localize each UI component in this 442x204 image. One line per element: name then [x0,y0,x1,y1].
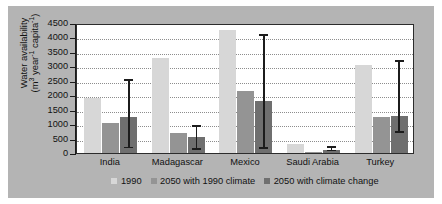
legend-item[interactable]: 1990 [111,176,141,186]
legend-swatch [151,178,157,184]
bar-group [347,23,415,153]
legend: 19902050 with 1990 climate2050 with clim… [76,174,414,188]
bar [237,91,254,153]
bar [219,30,236,153]
error-bar-cap [259,34,268,36]
y-axis-tick-labels: 050010001500200025003000350040004500 [8,6,68,198]
error-bar [398,62,400,133]
y-axis-tick [70,24,76,25]
y-axis-tick-label: 2500 [10,77,68,86]
legend-label: 2050 with 1990 climate [160,176,255,186]
error-bar-cap [124,147,133,149]
bar-group [77,23,145,153]
error-bar [263,36,265,149]
bar [102,123,119,153]
y-axis-tick-label: 500 [10,135,68,144]
x-axis-tick-label: Mexico [211,156,279,168]
y-axis-tick [70,154,76,155]
y-axis-tick [70,125,76,126]
y-axis-tick-label: 2000 [10,91,68,100]
y-axis-tick-label: 3500 [10,48,68,57]
bar [84,98,101,153]
bar-group [212,23,280,153]
error-bar-cap [259,147,268,149]
y-axis-tick-label: 3000 [10,62,68,71]
error-bar-cap [192,125,201,127]
legend-swatch [111,178,117,184]
bar [373,117,390,153]
bar [170,133,187,153]
plot-area [76,24,414,154]
y-axis-tick-label: 4500 [10,19,68,28]
error-bar [128,81,130,148]
legend-label: 1990 [121,176,142,186]
bar [305,152,322,153]
legend-item[interactable]: 2050 with climate change [264,176,378,186]
y-axis-tick [70,111,76,112]
error-bar-cap [124,79,133,81]
figure-panel: Water availability (m3 year-1 capita-1) … [8,6,434,198]
x-axis-tick-label: India [76,156,144,168]
y-axis-tick [70,38,76,39]
y-axis-tick-label: 1000 [10,120,68,129]
error-bar-cap [395,60,404,62]
error-bar-cap [192,148,201,150]
y-axis-tick-label: 1500 [10,106,68,115]
y-axis-tick [70,140,76,141]
y-axis-tick [70,82,76,83]
bar [355,65,372,153]
error-bar-cap [327,146,336,148]
y-axis-tick-label: 4000 [10,33,68,42]
error-bar-cap [395,131,404,133]
error-bar [196,127,198,150]
bar [287,144,304,153]
error-bar-cap [327,150,336,152]
y-axis-tick [70,67,76,68]
bar-group [145,23,213,153]
legend-item[interactable]: 2050 with 1990 climate [151,176,256,186]
bar [152,58,169,153]
x-axis-tick-label: Saudi Arabia [279,156,347,168]
legend-swatch [264,178,270,184]
x-axis-tick-label: Turkey [346,156,414,168]
y-axis-tick [70,96,76,97]
bar-group [280,23,348,153]
x-axis-tick-label: Madagascar [144,156,212,168]
legend-label: 2050 with climate change [274,176,379,186]
x-axis-tick-labels: IndiaMadagascarMexicoSaudi ArabiaTurkey [76,156,414,170]
y-axis-tick-label: 0 [10,149,68,158]
y-axis-tick [70,53,76,54]
